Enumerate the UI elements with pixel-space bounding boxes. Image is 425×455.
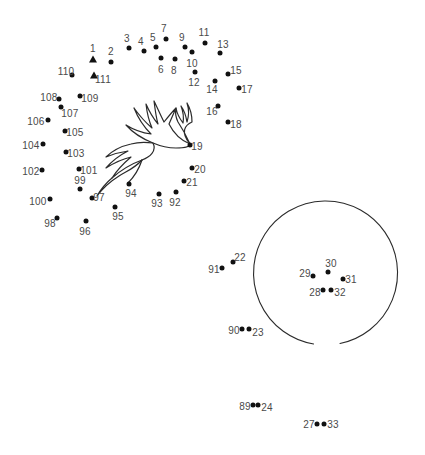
- dot-marker-10[interactable]: [190, 50, 195, 55]
- dot-label-33: 33: [327, 419, 339, 430]
- dot-marker-90[interactable]: [240, 327, 245, 332]
- dot-label-30: 30: [325, 258, 337, 269]
- dot-marker-29[interactable]: [311, 274, 316, 279]
- dot-label-19: 19: [191, 141, 203, 152]
- dot-label-9: 9: [179, 32, 185, 43]
- dot-label-3: 3: [124, 33, 130, 44]
- dot-label-23: 23: [252, 327, 264, 338]
- dot-label-21: 21: [186, 177, 198, 188]
- dot-label-97: 97: [93, 192, 105, 203]
- dot-label-22: 22: [234, 252, 246, 263]
- dot-marker-30[interactable]: [326, 270, 331, 275]
- dot-marker-7[interactable]: [164, 37, 169, 42]
- dot-marker-33[interactable]: [322, 422, 327, 427]
- dot-marker-89[interactable]: [251, 403, 256, 408]
- dot-label-102: 102: [22, 166, 39, 177]
- dot-marker-27[interactable]: [315, 422, 320, 427]
- dot-marker-104[interactable]: [41, 142, 46, 147]
- dot-marker-24[interactable]: [256, 403, 261, 408]
- dot-label-27: 27: [303, 419, 315, 430]
- dot-label-31: 31: [345, 274, 357, 285]
- dot-label-4: 4: [138, 36, 144, 47]
- dot-label-7: 7: [161, 23, 167, 34]
- dot-label-93: 93: [151, 198, 163, 209]
- dot-label-110: 110: [58, 66, 75, 77]
- dot-label-13: 13: [217, 39, 229, 50]
- dot-marker-95[interactable]: [113, 205, 118, 210]
- dot-marker-94[interactable]: [127, 182, 132, 187]
- dot-label-96: 96: [79, 226, 91, 237]
- dot-marker-13[interactable]: [218, 51, 223, 56]
- dot-label-32: 32: [334, 287, 346, 298]
- dot-label-111: 111: [95, 74, 111, 85]
- dot-label-99: 99: [74, 175, 86, 186]
- dot-marker-28[interactable]: [321, 288, 326, 293]
- dot-label-106: 106: [27, 116, 44, 127]
- dot-label-92: 92: [169, 197, 181, 208]
- leaf-path-spiky: [126, 101, 190, 148]
- leaf-path-lower-left: [106, 142, 154, 178]
- pineapple-crown-leaves-group: [97, 101, 192, 196]
- dot-label-28: 28: [309, 287, 321, 298]
- dot-marker-91[interactable]: [220, 266, 225, 271]
- dot-label-90: 90: [228, 325, 240, 336]
- dot-marker-100[interactable]: [48, 197, 53, 202]
- dot-label-91: 91: [208, 264, 220, 275]
- dot-marker-5[interactable]: [154, 45, 159, 50]
- dot-label-29: 29: [299, 268, 311, 279]
- dot-marker-23[interactable]: [247, 327, 252, 332]
- dot-label-1: 1: [90, 43, 96, 54]
- dot-marker-102[interactable]: [40, 168, 45, 173]
- dot-label-12: 12: [188, 77, 200, 88]
- dot-marker-9[interactable]: [183, 45, 188, 50]
- dot-marker-92[interactable]: [174, 190, 179, 195]
- dot-label-8: 8: [171, 65, 177, 76]
- dot-label-24: 24: [261, 402, 273, 413]
- dot-label-95: 95: [112, 211, 124, 222]
- dot-label-11: 11: [199, 27, 210, 38]
- dot-label-104: 104: [22, 140, 39, 151]
- dot-label-107: 107: [61, 108, 78, 119]
- dot-label-89: 89: [239, 401, 251, 412]
- dot-label-94: 94: [125, 188, 137, 199]
- dot-marker-11[interactable]: [203, 41, 208, 46]
- dot-label-5: 5: [150, 32, 156, 43]
- dot-label-2: 2: [108, 46, 114, 57]
- dot-marker-2[interactable]: [109, 60, 114, 65]
- dot-label-108: 108: [40, 92, 57, 103]
- dot-label-17: 17: [241, 84, 253, 95]
- dot-marker-106[interactable]: [46, 118, 51, 123]
- dot-marker-32[interactable]: [329, 288, 334, 293]
- connect-the-dots-canvas: 1234567891011121314151617181920212223242…: [0, 0, 425, 455]
- dot-label-15: 15: [230, 65, 242, 76]
- dot-label-18: 18: [230, 119, 242, 130]
- dot-label-98: 98: [44, 218, 56, 229]
- dot-marker-93[interactable]: [157, 192, 162, 197]
- dot-label-6: 6: [158, 64, 164, 75]
- dot-label-105: 105: [66, 127, 83, 138]
- dot-marker-6[interactable]: [159, 56, 164, 61]
- dot-label-103: 103: [67, 148, 84, 159]
- dot-marker-12[interactable]: [193, 70, 198, 75]
- leaf-path-upper: [176, 103, 192, 144]
- dot-label-109: 109: [81, 93, 98, 104]
- dot-marker-96[interactable]: [84, 219, 89, 224]
- dot-marker-3[interactable]: [127, 46, 132, 51]
- dot-label-14: 14: [206, 84, 218, 95]
- dot-label-100: 100: [29, 196, 46, 207]
- dot-marker-4[interactable]: [142, 49, 147, 54]
- dot-label-16: 16: [206, 106, 218, 117]
- dot-label-20: 20: [194, 164, 206, 175]
- dot-marker-1[interactable]: [89, 56, 97, 63]
- dot-marker-8[interactable]: [173, 57, 178, 62]
- dot-label-10: 10: [186, 58, 198, 69]
- dot-label-101: 101: [80, 165, 97, 176]
- dot-marker-99[interactable]: [78, 187, 83, 192]
